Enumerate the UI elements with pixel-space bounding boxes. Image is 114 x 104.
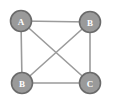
- graph-diagram: ABBC: [0, 0, 114, 104]
- graph-node-n3[interactable]: B: [12, 73, 33, 94]
- node-label: C: [87, 79, 94, 89]
- graph-node-n2[interactable]: B: [80, 12, 101, 33]
- graph-node-n1[interactable]: A: [11, 11, 32, 32]
- node-label: B: [19, 79, 25, 89]
- graph-node-n4[interactable]: C: [80, 73, 101, 94]
- node-label: A: [18, 17, 25, 27]
- edges-layer: [21, 21, 90, 83]
- node-label: B: [87, 18, 93, 28]
- graph-canvas: ABBC: [0, 0, 114, 104]
